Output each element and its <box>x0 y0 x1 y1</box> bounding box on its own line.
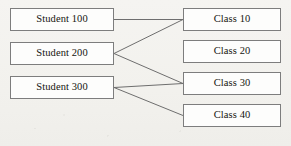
edge-student300-class40 <box>114 88 183 116</box>
node-label: Class 20 <box>214 46 251 57</box>
node-label: Class 30 <box>214 78 251 89</box>
edge-student200-class10 <box>114 20 183 54</box>
node-label: Student 100 <box>36 14 88 25</box>
node-label: Class 10 <box>214 14 251 25</box>
node-label: Student 300 <box>36 82 88 93</box>
relationship-diagram: Student 100 Student 200 Student 300 Clas… <box>0 0 291 146</box>
node-class-20[interactable]: Class 20 <box>183 40 281 63</box>
node-class-30[interactable]: Class 30 <box>183 72 281 95</box>
edge-student300-class30 <box>114 84 183 88</box>
node-label: Class 40 <box>214 110 251 121</box>
edge-student200-class30 <box>114 54 183 84</box>
node-class-10[interactable]: Class 10 <box>183 8 281 31</box>
node-class-40[interactable]: Class 40 <box>183 104 281 127</box>
node-label: Student 200 <box>36 48 88 59</box>
node-student-200[interactable]: Student 200 <box>10 42 114 65</box>
node-student-100[interactable]: Student 100 <box>10 8 114 31</box>
node-student-300[interactable]: Student 300 <box>10 76 114 99</box>
